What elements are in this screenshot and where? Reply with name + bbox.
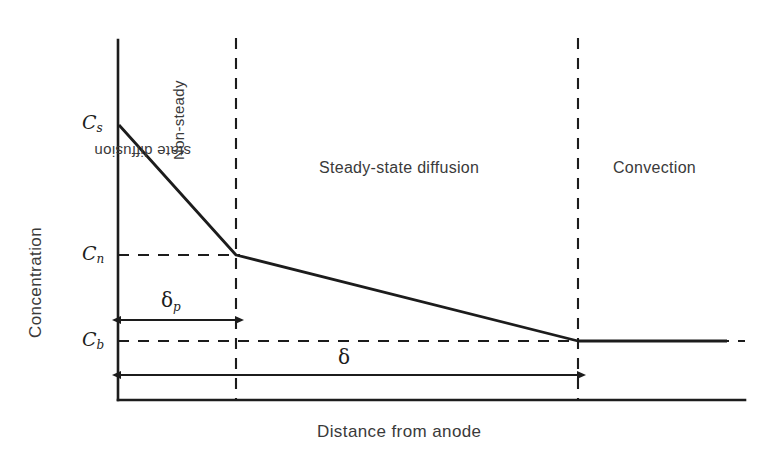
dimension-label-delta-p-sub: p: [173, 300, 181, 314]
dimension-label-delta: δ: [338, 347, 350, 367]
y-tick-label-cn-base: C: [82, 242, 97, 264]
y-axis-title: Concentration: [26, 227, 46, 338]
region-label-steady-state-diffusion: Steady-state diffusion: [319, 160, 479, 176]
y-tick-label-cs: Cs: [82, 113, 103, 134]
y-tick-label-cs-sub: s: [97, 121, 103, 135]
y-tick-label-cb: Cb: [82, 330, 104, 351]
region-label-convection: Convection: [613, 160, 696, 176]
x-axis-title: Distance from anode: [317, 423, 481, 440]
y-axis-title-text: Concentration: [26, 227, 45, 338]
dimension-label-delta-p: δp: [161, 290, 181, 313]
concentration-curve: [119, 125, 727, 341]
y-tick-label-cn: Cn: [82, 244, 104, 265]
region-label-non-steady-diffusion: Non-steady state diffusion: [170, 63, 208, 160]
concentration-profile-figure: Concentration Distance from anode Non-st…: [0, 0, 776, 465]
y-tick-label-cb-sub: b: [97, 338, 105, 352]
y-tick-label-cs-base: C: [82, 111, 97, 133]
plot-area: [0, 0, 776, 465]
y-tick-label-cn-sub: n: [97, 252, 105, 266]
region-label-non-steady-line2: state diffusion: [94, 143, 191, 160]
y-tick-label-cb-base: C: [82, 328, 97, 350]
dimension-label-delta-p-base: δ: [161, 288, 173, 312]
